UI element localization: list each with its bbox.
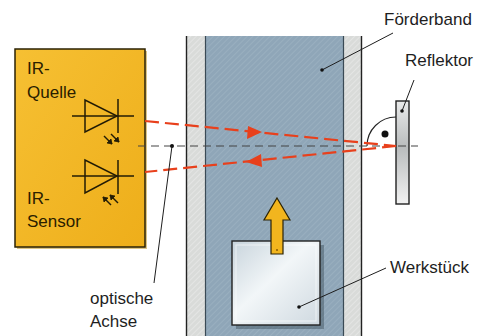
- workpiece-label: Werkstück: [390, 258, 470, 277]
- conveyor-label: Förderband: [384, 10, 472, 29]
- right-angle-dot: [382, 131, 389, 138]
- ir-source-label-1: IR-: [27, 59, 50, 78]
- optical-axis-leader-line: [154, 146, 172, 283]
- right-angle-mark: [367, 117, 396, 146]
- reflector: [396, 101, 409, 204]
- ir-sensor-label-2: Sensor: [27, 212, 81, 231]
- ir-sensor-label-1: IR-: [27, 189, 50, 208]
- belt-right-edge: [343, 36, 361, 336]
- light-barrier-diagram: IR- Quelle IR- Sensor: [0, 0, 487, 336]
- optical-axis-label-1: optische: [90, 289, 153, 308]
- belt-left-edge: [186, 36, 206, 336]
- optical-axis-label-2: Achse: [90, 312, 137, 331]
- ir-source-label-2: Quelle: [27, 83, 76, 102]
- reflector-label: Reflektor: [405, 51, 473, 70]
- sensor-housing: IR- Quelle IR- Sensor: [15, 49, 147, 249]
